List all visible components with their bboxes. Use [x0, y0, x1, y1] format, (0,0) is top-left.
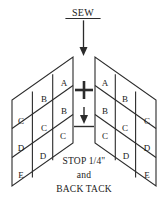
diagram-canvas: SEW A B B C C C D D E A B B C C C D D E …	[0, 0, 168, 204]
right-cell-letter-b2: B	[102, 107, 108, 116]
left-cell-letter-c3: C	[60, 132, 66, 141]
left-cell-letter-d1: D	[18, 144, 25, 153]
left-cell-letter-b1: B	[41, 95, 47, 104]
sew-arrow-head	[80, 47, 88, 56]
sew-label: SEW	[72, 8, 94, 17]
caption-line-back-tack: BACK TACK	[56, 185, 112, 194]
right-cell-letter-c1: C	[144, 117, 150, 126]
caption-line-and: and	[77, 171, 91, 180]
right-cell-letter-e1: E	[144, 171, 150, 180]
right-cell-letter-b1: B	[122, 95, 128, 104]
right-cell-letter-d2: D	[123, 152, 130, 161]
stop-arrow-head	[80, 115, 88, 124]
right-cell-letter-c2: C	[122, 124, 128, 133]
left-cell-letter-b2: B	[61, 107, 67, 116]
right-cell-letter-d1: D	[144, 144, 151, 153]
left-cell-letter-d2: D	[40, 152, 47, 161]
left-cell-letter-a1: A	[61, 79, 68, 88]
left-cell-letter-c1: C	[18, 117, 24, 126]
right-cell-letter-c3: C	[102, 132, 108, 141]
left-cell-letter-e1: E	[18, 171, 24, 180]
left-cell-letter-c2: C	[41, 124, 47, 133]
caption-line-stop: STOP 1/4"	[63, 157, 106, 166]
right-cell-letter-a1: A	[102, 79, 109, 88]
